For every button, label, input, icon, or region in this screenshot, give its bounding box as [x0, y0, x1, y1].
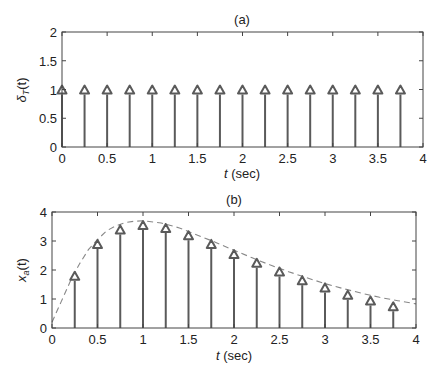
panel-a-triangle-marker-icon — [125, 86, 134, 94]
figure: (a) 00.511.522.533.5400.511.52 t (sec) δ… — [0, 0, 446, 380]
panel-a-triangle-marker-icon — [306, 86, 315, 94]
panel-a-triangle-marker-icon — [170, 86, 179, 94]
panel-a-xtick-label: 0.5 — [98, 151, 116, 166]
panel-b-xtick-label: 4 — [412, 332, 419, 347]
panel-a-triangle-marker-icon — [328, 86, 337, 94]
panel-b-xtick-label: 2.5 — [270, 332, 288, 347]
panel-a-xtick-label: 1.5 — [188, 151, 206, 166]
panel-b-triangle-marker-icon — [275, 267, 284, 275]
panel-a-ytick-label: 0.5 — [39, 111, 57, 126]
panel-a-xtick-label: 1 — [149, 151, 156, 166]
panel-a-triangle-marker-icon — [148, 86, 157, 94]
panel-b-triangle-marker-icon — [298, 276, 307, 284]
panel-b-xlabel: t (sec) — [216, 348, 252, 363]
panel-a-triangle-marker-icon — [238, 86, 247, 94]
panel-b-triangle-marker-icon — [207, 240, 216, 248]
panel-a-xlabel: t (sec) — [224, 166, 260, 181]
panel-b-xtick-label: 0 — [48, 332, 55, 347]
panel-b-triangle-marker-icon — [343, 291, 352, 299]
panel-b-triangle-marker-icon — [70, 272, 79, 280]
panel-a-xtick-label: 3 — [329, 151, 336, 166]
panel-a-title: (a) — [234, 12, 250, 27]
panel-b-ytick-label: 3 — [40, 234, 47, 249]
panel-a-triangle-marker-icon — [396, 86, 405, 94]
panel-a-triangle-marker-icon — [283, 86, 292, 94]
panel-b-xtick-label: 0.5 — [88, 332, 106, 347]
panel-b-triangle-marker-icon — [366, 296, 375, 304]
panel-a-xtick-label: 2.5 — [279, 151, 297, 166]
panel-b-ytick-label: 0 — [40, 321, 47, 336]
panel-b-triangle-marker-icon — [116, 225, 125, 233]
panel-a-ytick-label: 1 — [50, 83, 57, 98]
panel-b: (b) 00.511.522.533.5401234 t (sec) xa(t) — [14, 192, 420, 363]
panel-a-xlabel-var: t — [224, 166, 229, 181]
panel-a: (a) 00.511.522.533.5400.511.52 t (sec) δ… — [14, 12, 427, 181]
chart-canvas: (a) 00.511.522.533.5400.511.52 t (sec) δ… — [0, 0, 446, 380]
panel-b-xtick-label: 3 — [321, 332, 328, 347]
panel-b-ytick-label: 1 — [40, 292, 47, 307]
panel-a-ylabel: δT(t) — [14, 77, 31, 102]
panel-a-plot-area: 00.511.522.533.5400.511.52 — [39, 25, 427, 166]
panel-b-title: (b) — [226, 192, 242, 207]
panel-b-ylabel: xa(t) — [14, 258, 31, 283]
panel-a-xlabel-unit: (sec) — [231, 166, 260, 181]
panel-a-xtick-label: 3.5 — [369, 151, 387, 166]
panel-a-triangle-marker-icon — [80, 86, 89, 94]
panel-a-triangle-marker-icon — [193, 86, 202, 94]
panel-a-triangle-marker-icon — [351, 86, 360, 94]
panel-b-xtick-label: 1.5 — [179, 332, 197, 347]
panel-a-triangle-marker-icon — [373, 86, 382, 94]
panel-b-xlabel-var: t — [216, 348, 221, 363]
panel-a-ylabel-arg: (t) — [14, 77, 29, 89]
panel-b-triangle-marker-icon — [93, 240, 102, 248]
panel-b-triangle-marker-icon — [252, 259, 261, 267]
panel-b-ylabel-arg: (t) — [14, 258, 29, 270]
panel-a-ytick-label: 1.5 — [39, 54, 57, 69]
panel-a-xtick-label: 0 — [58, 151, 65, 166]
panel-b-xtick-label: 1 — [139, 332, 146, 347]
panel-a-ytick-label: 0 — [50, 140, 57, 155]
panel-b-xtick-label: 2 — [230, 332, 237, 347]
panel-a-xtick-label: 2 — [239, 151, 246, 166]
panel-b-xtick-label: 3.5 — [361, 332, 379, 347]
panel-b-triangle-marker-icon — [184, 231, 193, 239]
panel-a-triangle-marker-icon — [215, 86, 224, 94]
panel-b-plot-area: 00.511.522.533.5401234 — [40, 205, 420, 347]
panel-b-xlabel-unit: (sec) — [223, 348, 252, 363]
panel-a-ytick-label: 2 — [50, 25, 57, 40]
panel-a-triangle-marker-icon — [103, 86, 112, 94]
panel-a-xtick-label: 4 — [419, 151, 426, 166]
panel-b-triangle-marker-icon — [139, 221, 148, 229]
panel-a-triangle-marker-icon — [261, 86, 270, 94]
panel-b-ytick-label: 4 — [40, 205, 47, 220]
panel-b-ytick-label: 2 — [40, 263, 47, 278]
panel-b-triangle-marker-icon — [389, 302, 398, 310]
